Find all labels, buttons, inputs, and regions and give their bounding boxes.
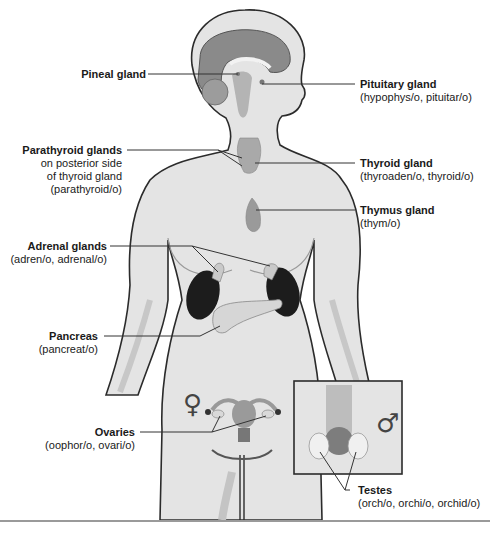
label-sub: (pancreat/o)	[39, 343, 98, 356]
label-title: Ovaries	[45, 426, 135, 439]
label-thymus-gland: Thymus gland (thym/o)	[360, 204, 435, 230]
label-title: Thymus gland	[360, 204, 435, 217]
label-title: Pancreas	[39, 330, 98, 343]
label-sub: on posterior side	[22, 157, 122, 170]
label-sub: (orch/o, orchi/o, orchid/o)	[358, 497, 480, 510]
bottom-divider	[0, 520, 490, 522]
male-symbol-icon: ♂	[376, 410, 399, 436]
label-title: Adrenal glands	[10, 240, 107, 253]
label-sub: (thym/o)	[360, 217, 435, 230]
label-sub: of thyroid gland	[22, 170, 122, 183]
female-symbol-icon: ♀	[183, 391, 202, 417]
label-sub: (thyroaden/o, thyroid/o)	[360, 170, 474, 183]
label-sub: (adren/o, adrenal/o)	[10, 253, 107, 266]
label-title: Pineal gland	[81, 68, 146, 81]
label-sub: (parathyroid/o)	[22, 183, 122, 196]
label-sub: (oophor/o, ovari/o)	[45, 439, 135, 452]
label-title: Parathyroid glands	[22, 144, 122, 157]
label-adrenal-glands: Adrenal glands (adren/o, adrenal/o)	[10, 240, 107, 266]
label-ovaries: Ovaries (oophor/o, ovari/o)	[45, 426, 135, 452]
label-parathyroid-glands: Parathyroid glands on posterior side of …	[22, 144, 122, 196]
label-sub: (hypophys/o, pituitar/o)	[360, 91, 472, 104]
label-testes: Testes (orch/o, orchi/o, orchid/o)	[358, 484, 480, 510]
label-title: Testes	[358, 484, 480, 497]
label-pituitary-gland: Pituitary gland (hypophys/o, pituitar/o)	[360, 78, 472, 104]
label-pancreas: Pancreas (pancreat/o)	[39, 330, 98, 356]
label-thyroid-gland: Thyroid gland (thyroaden/o, thyroid/o)	[360, 157, 474, 183]
label-pineal-gland: Pineal gland	[81, 68, 146, 81]
label-title: Pituitary gland	[360, 78, 472, 91]
label-title: Thyroid gland	[360, 157, 474, 170]
